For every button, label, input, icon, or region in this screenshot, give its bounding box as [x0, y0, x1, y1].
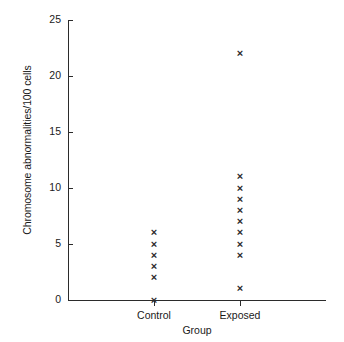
data-point [150, 228, 159, 237]
data-point [150, 273, 159, 282]
y-tick-mark [69, 300, 73, 301]
plot-area: 0510152025 ControlExposed [68, 20, 326, 300]
y-tick-mark [69, 20, 73, 21]
y-tick-mark [69, 244, 73, 245]
data-point [236, 195, 245, 204]
y-tick-label: 25 [49, 13, 61, 26]
data-point [150, 251, 159, 260]
x-axis-label: Group [68, 324, 326, 336]
data-point [150, 296, 159, 305]
data-point [236, 240, 245, 249]
y-tick-mark [69, 76, 73, 77]
data-point [150, 240, 159, 249]
data-point [236, 184, 245, 193]
data-point [236, 284, 245, 293]
data-point [236, 228, 245, 237]
x-axis-line [68, 300, 326, 301]
chart-figure: Chromosome abnormalities/100 cells 05101… [0, 0, 344, 342]
y-tick-mark [69, 188, 73, 189]
data-point [236, 206, 245, 215]
y-axis-line [68, 20, 69, 301]
x-tick-mark [240, 301, 241, 306]
data-point [236, 251, 245, 260]
y-tick-mark [69, 132, 73, 133]
y-tick-label: 0 [55, 293, 61, 306]
y-tick-label: 5 [55, 237, 61, 250]
data-point [236, 172, 245, 181]
data-point [150, 262, 159, 271]
x-tick-label-exposed: Exposed [220, 309, 261, 322]
y-tick-label: 20 [49, 69, 61, 82]
y-tick-label: 10 [49, 181, 61, 194]
x-tick-label-control: Control [137, 309, 171, 322]
data-point [236, 49, 245, 58]
data-point [236, 217, 245, 226]
y-tick-label: 15 [49, 125, 61, 138]
y-axis-label: Chromosome abnormalities/100 cells [18, 0, 36, 300]
